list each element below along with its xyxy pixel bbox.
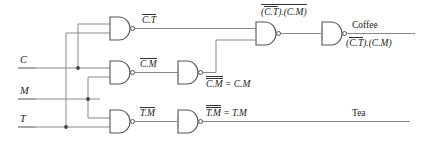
inner-overline-ct: C.T [264, 6, 278, 17]
label-cm-double: C.M = C.M [206, 76, 250, 89]
overline-ct-coffee: C.T [349, 37, 363, 48]
double-overline-tm: T.M [206, 105, 221, 118]
logic-circuit-diagram: C M T C.T C.M T.M C.M = C.M T.M = T.M (C… [0, 0, 421, 143]
overline-ct: C.T [142, 14, 156, 25]
output-label-coffee: Coffee [352, 20, 378, 30]
label-ct-bar: C.T [142, 14, 156, 25]
label-coffee-expression: (C.T).(C.M) [346, 37, 392, 48]
output-label-tea: Tea [352, 108, 366, 118]
coffee-rest: ).(C.M) [363, 38, 392, 48]
input-label-m: M [20, 85, 29, 96]
combine-rest: ).(C.M) [278, 7, 307, 17]
input-label-c: C [20, 54, 27, 65]
label-cm-double-tail: = C.M [223, 79, 251, 89]
outer-overline-combine: (C.T).(C.M) [261, 4, 307, 17]
label-combine-expression: (C.T).(C.M) [261, 4, 307, 17]
input-label-t: T [20, 113, 26, 124]
label-tm-double: T.M = T.M [206, 105, 247, 118]
overline-cm: C.M [140, 58, 157, 69]
overline-tm: T.M [140, 107, 155, 118]
label-tm-double-tail: = T.M [221, 108, 247, 118]
label-cm-bar: C.M [140, 58, 157, 69]
label-tm-bar: T.M [140, 107, 155, 118]
double-overline-cm: C.M [206, 76, 223, 89]
